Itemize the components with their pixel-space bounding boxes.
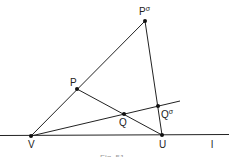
label-u: U bbox=[159, 139, 166, 150]
point-p-sigma bbox=[143, 19, 147, 23]
label-line-l: l bbox=[211, 139, 213, 150]
label-p-sigma: Pσ bbox=[139, 5, 151, 17]
segment-v-psigma bbox=[31, 21, 145, 136]
point-v bbox=[29, 134, 33, 138]
segment-p-u bbox=[77, 89, 162, 135]
segment-psigma-u bbox=[145, 21, 162, 135]
point-q-sigma bbox=[156, 104, 160, 108]
label-q-sigma: Qσ bbox=[161, 108, 174, 120]
label-q: Q bbox=[119, 117, 127, 128]
point-q bbox=[122, 112, 126, 116]
point-u bbox=[160, 133, 164, 137]
projective-geometry-figure: Pσ P Q Qσ V U l Fig. 51 bbox=[0, 0, 229, 157]
label-v: V bbox=[28, 139, 35, 150]
label-p: P bbox=[70, 77, 77, 88]
figure-caption: Fig. 51 bbox=[100, 153, 125, 157]
